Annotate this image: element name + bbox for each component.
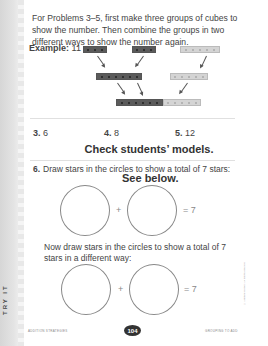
question-number: 6. bbox=[33, 164, 40, 174]
arrow-icon bbox=[201, 56, 207, 67]
cube-group-5 bbox=[180, 46, 220, 53]
star-circle-2[interactable] bbox=[127, 185, 177, 236]
star-circle-3[interactable] bbox=[61, 264, 111, 315]
cube-group-3a bbox=[83, 46, 107, 53]
star-circle-1[interactable] bbox=[60, 185, 110, 236]
arrow-icon bbox=[137, 83, 143, 94]
problem-5: 5. 12 bbox=[175, 128, 195, 138]
divider bbox=[30, 160, 235, 161]
example-label: Example: 11 bbox=[29, 43, 81, 53]
answer-see-below: See below. bbox=[122, 172, 178, 184]
copyright: © Addison-Wesley. All rights reserved. bbox=[243, 262, 246, 305]
star-circle-4[interactable] bbox=[129, 264, 179, 315]
arrow-icon bbox=[97, 56, 105, 66]
equals-seven: = 7 bbox=[184, 284, 197, 294]
torn-edge bbox=[18, 0, 24, 346]
plus-sign: + bbox=[116, 205, 121, 215]
try-it-tab: TRY IT bbox=[2, 280, 18, 320]
example-number: 11 bbox=[72, 43, 81, 53]
problem-4: 4. 8 bbox=[104, 128, 119, 138]
cube-group-3b bbox=[132, 46, 156, 53]
arrow-icon bbox=[136, 56, 144, 66]
page-number: 104 bbox=[124, 325, 141, 336]
answer-check-models: Check students’ models. bbox=[0, 143, 268, 155]
cube-group-11-dark bbox=[116, 99, 163, 106]
equals-seven: = 7 bbox=[183, 205, 196, 215]
example-title: Example: bbox=[29, 43, 69, 53]
footer-lesson: GROUPING TO ADD bbox=[205, 329, 238, 333]
arrow-icon bbox=[117, 83, 125, 93]
arrow-icon bbox=[180, 83, 188, 93]
divider bbox=[30, 118, 235, 119]
cube-group-11-light bbox=[163, 99, 201, 106]
plus-sign: + bbox=[118, 284, 123, 294]
cube-group-6 bbox=[96, 73, 142, 80]
footer-chapter: ADDITION STRATEGIES bbox=[28, 329, 68, 333]
question-6-part-2: Now draw stars in the circles to show a … bbox=[44, 242, 234, 264]
problem-3: 3. 6 bbox=[33, 128, 48, 138]
cube-group-5-mid bbox=[170, 73, 208, 80]
